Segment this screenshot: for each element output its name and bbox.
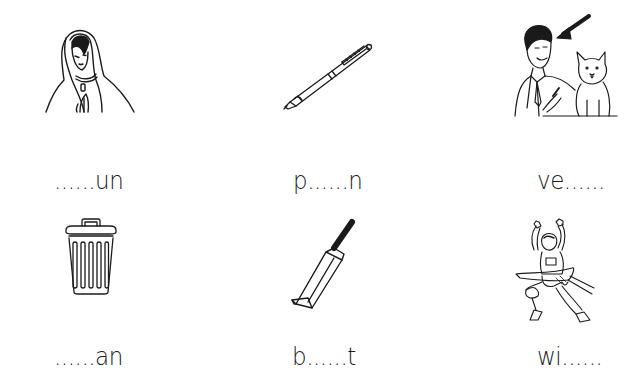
worksheet: ......un p......n <box>0 0 625 390</box>
word-3: ve...... <box>537 168 605 193</box>
cricket-bat-icon <box>286 218 358 314</box>
word-1: ......un <box>54 168 123 193</box>
vet-icon <box>513 12 619 120</box>
pen-icon <box>280 34 380 110</box>
word-5: b......t <box>292 344 356 369</box>
runner-icon <box>512 216 602 328</box>
nun-icon <box>42 24 138 114</box>
word-6: wi...... <box>537 344 602 369</box>
trash-can-icon <box>64 218 118 296</box>
word-2: p......n <box>293 168 362 193</box>
word-4: ......an <box>54 344 123 369</box>
